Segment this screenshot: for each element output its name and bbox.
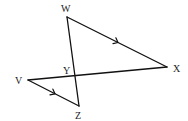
label-y: Y: [63, 65, 70, 76]
label-v: V: [15, 75, 23, 86]
label-z: Z: [75, 110, 81, 121]
geometry-diagram: W X V Z Y: [0, 0, 188, 121]
segment-wz: [67, 17, 79, 106]
label-w: W: [61, 3, 71, 14]
label-x: X: [173, 63, 181, 74]
segment-vx: [28, 67, 167, 80]
segment-vz: [28, 80, 79, 106]
segment-wx: [67, 17, 167, 67]
